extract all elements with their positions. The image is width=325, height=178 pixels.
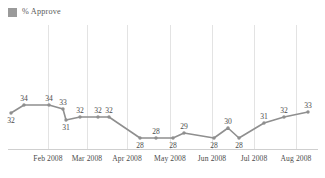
data-point-marker <box>9 111 12 114</box>
x-axis-tick-label: Jul 2008 <box>241 155 268 163</box>
data-point-marker <box>282 115 285 118</box>
series-markers-approve <box>9 103 309 139</box>
data-point-marker <box>171 136 174 139</box>
x-axis-tick-label: Feb 2008 <box>33 155 62 163</box>
data-point-marker <box>212 136 215 139</box>
data-point-marker <box>107 115 110 118</box>
data-point-marker <box>22 103 25 106</box>
approval-rating-line-chart: % Approve 323434333132323228282829283028… <box>0 0 325 178</box>
x-axis-tick-label: Apr 2008 <box>112 155 142 163</box>
data-point-marker <box>262 121 265 124</box>
data-point-marker <box>306 110 309 113</box>
data-point-marker <box>47 103 50 106</box>
data-point-marker <box>226 126 229 129</box>
x-axis-tick-label: Aug 2008 <box>281 155 312 163</box>
vertical-gridlines <box>49 25 297 149</box>
data-point-marker <box>64 118 67 121</box>
data-point-marker <box>154 136 157 139</box>
x-axis-tick-label: Mar 2008 <box>72 155 103 163</box>
data-point-marker <box>78 115 81 118</box>
x-axis-tick-label: May 2008 <box>154 155 186 163</box>
data-point-marker <box>182 131 185 134</box>
data-point-marker <box>237 136 240 139</box>
plot-area <box>0 0 325 178</box>
data-point-marker <box>61 107 64 110</box>
data-point-marker <box>138 136 141 139</box>
x-axis-tick-labels: Feb 2008Mar 2008Apr 2008May 2008Jun 2008… <box>0 155 325 171</box>
data-point-marker <box>96 115 99 118</box>
x-axis-tick-label: Jun 2008 <box>198 155 226 163</box>
